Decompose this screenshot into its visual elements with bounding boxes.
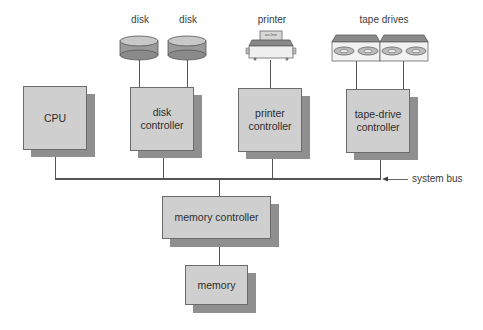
arrow-left-icon bbox=[382, 176, 388, 182]
tape-controller-box: tape-drive controller bbox=[346, 89, 410, 153]
disk-controller-box: disk controller bbox=[130, 87, 194, 151]
cpu-label: CPU bbox=[44, 112, 66, 125]
tape-2-connector bbox=[403, 61, 404, 89]
disk-2-icon bbox=[167, 35, 207, 61]
cpu-box: CPU bbox=[23, 86, 87, 150]
tape-drives-icon bbox=[332, 35, 428, 63]
tape-controller-label-line1: tape-drive bbox=[355, 108, 402, 121]
tape-controller-label-line2: controller bbox=[356, 121, 399, 134]
disk-controller-label-line1: disk bbox=[153, 106, 172, 119]
memory-label: memory bbox=[198, 279, 236, 292]
printer-label: printer bbox=[250, 14, 294, 25]
disk-controller-label-line2: controller bbox=[140, 119, 183, 132]
printer-controller-label-line1: printer bbox=[255, 107, 285, 120]
disk-1-connector bbox=[139, 60, 140, 88]
memory-box: memory bbox=[185, 265, 248, 305]
disk-1-label: disk bbox=[122, 14, 158, 25]
printer-controller-label-line2: controller bbox=[248, 120, 291, 133]
disk-1-icon bbox=[119, 35, 159, 61]
bus-to-memory-controller bbox=[219, 179, 220, 197]
printer-panel-text: on-line bbox=[260, 32, 282, 37]
system-bus-label: system bus bbox=[412, 173, 463, 184]
printer-connector bbox=[270, 60, 271, 88]
memory-controller-label: memory controller bbox=[174, 211, 258, 224]
bus-annotation-leader bbox=[386, 179, 408, 180]
memory-controller-box: memory controller bbox=[162, 196, 271, 239]
tape-drives-label: tape drives bbox=[352, 14, 416, 25]
printer-controller-box: printer controller bbox=[238, 88, 302, 152]
disk-2-label: disk bbox=[170, 14, 206, 25]
tape-1-connector bbox=[356, 61, 357, 89]
disk-2-connector bbox=[187, 60, 188, 88]
system-bus bbox=[55, 178, 381, 180]
